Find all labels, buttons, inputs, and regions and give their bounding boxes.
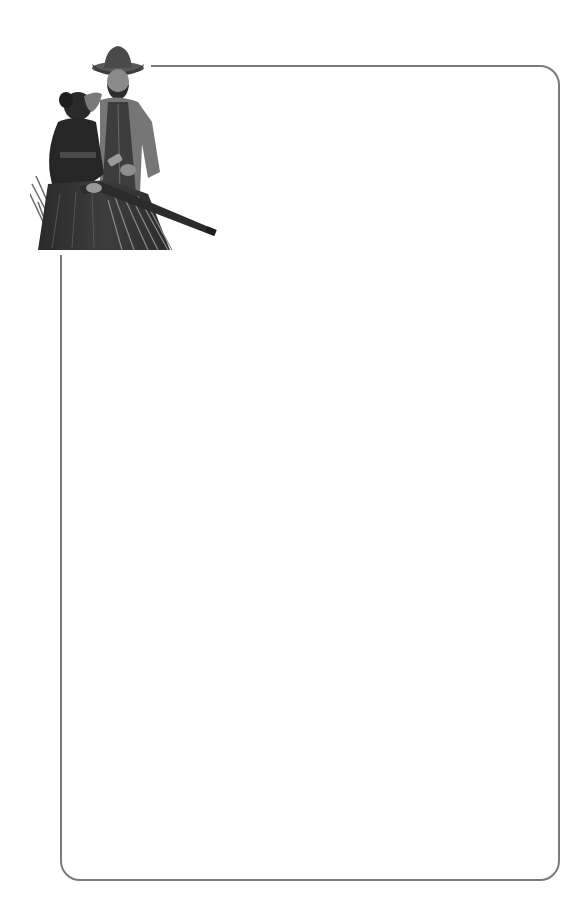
stationery-page [0,0,588,924]
cowboy-couple-illustration [30,44,220,252]
